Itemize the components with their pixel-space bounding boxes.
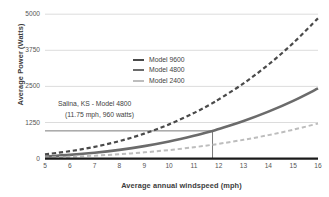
chart-legend: Model 9600 Model 4800 Model 2400 [133, 56, 185, 85]
plot-area [0, 0, 329, 197]
legend-label-model-4800: Model 4800 [149, 66, 185, 74]
legend-swatch-model-4800 [133, 69, 144, 71]
annotation-line-1: Salina, KS - Model 4800 [58, 99, 134, 110]
chart-container: Average Power (Watts) Average annual win… [0, 0, 329, 197]
legend-label-model-9600: Model 9600 [149, 56, 185, 64]
legend-item-model-9600[interactable]: Model 9600 [133, 56, 185, 64]
legend-swatch-model-9600 [133, 59, 144, 61]
legend-item-model-2400[interactable]: Model 2400 [133, 77, 185, 85]
legend-item-model-4800[interactable]: Model 4800 [133, 66, 185, 74]
annotation-salina-callout: Salina, KS - Model 4800 (11.75 mph, 960 … [58, 99, 134, 120]
legend-label-model-2400: Model 2400 [149, 77, 185, 85]
legend-swatch-model-2400 [133, 80, 144, 82]
annotation-line-2: (11.75 mph, 960 watts) [58, 110, 134, 121]
series-lines [45, 18, 318, 157]
